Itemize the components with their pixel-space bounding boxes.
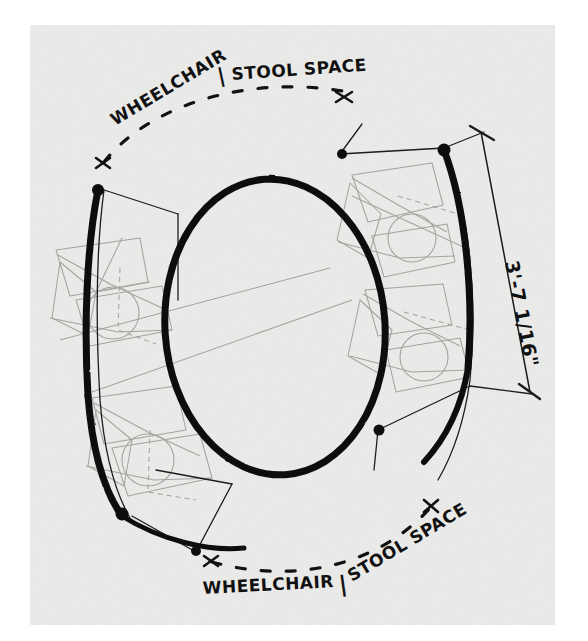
arc-endpoint-dot-bottom bbox=[191, 546, 201, 556]
arc-endpoint-dot-top bbox=[337, 149, 347, 159]
arc-endpoint-dot-ll bbox=[116, 508, 129, 521]
architectural-sketch: WHEELCHAIR | STOOL SPACE WHEELCHAIR | ST… bbox=[0, 0, 588, 641]
arc-endpoint-dot-lr bbox=[374, 425, 385, 436]
arc-endpoint-dot-ur bbox=[438, 144, 451, 157]
sketch-canvas: WHEELCHAIR | STOOL SPACE WHEELCHAIR | ST… bbox=[0, 0, 588, 641]
arc-endpoint-dot-ul bbox=[92, 184, 104, 196]
